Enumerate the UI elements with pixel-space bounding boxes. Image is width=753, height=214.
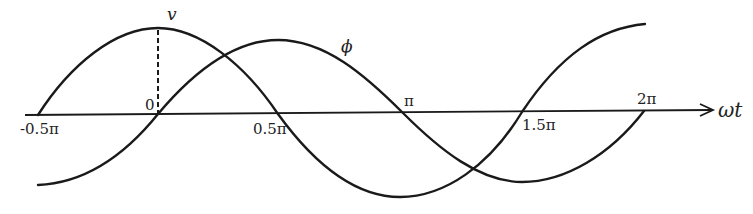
tick-label-0.5pi: 0.5π xyxy=(253,120,287,138)
tick-label-pi: π xyxy=(404,92,414,110)
waveform-diagram: -0.5π 0 0.5π π 1.5π 2π v ϕ ωt xyxy=(0,0,753,214)
wt-axis xyxy=(25,110,712,115)
tick-label-1.5pi: 1.5π xyxy=(522,116,556,134)
tick-label-neg-0.5pi: -0.5π xyxy=(20,120,59,138)
tick-label-origin: 0 xyxy=(145,96,155,114)
axis-label-wt: ωt xyxy=(718,98,743,122)
v-curve-label: v xyxy=(167,4,177,24)
tick-label-2pi: 2π xyxy=(637,90,657,108)
phi-curve-label: ϕ xyxy=(341,36,353,56)
